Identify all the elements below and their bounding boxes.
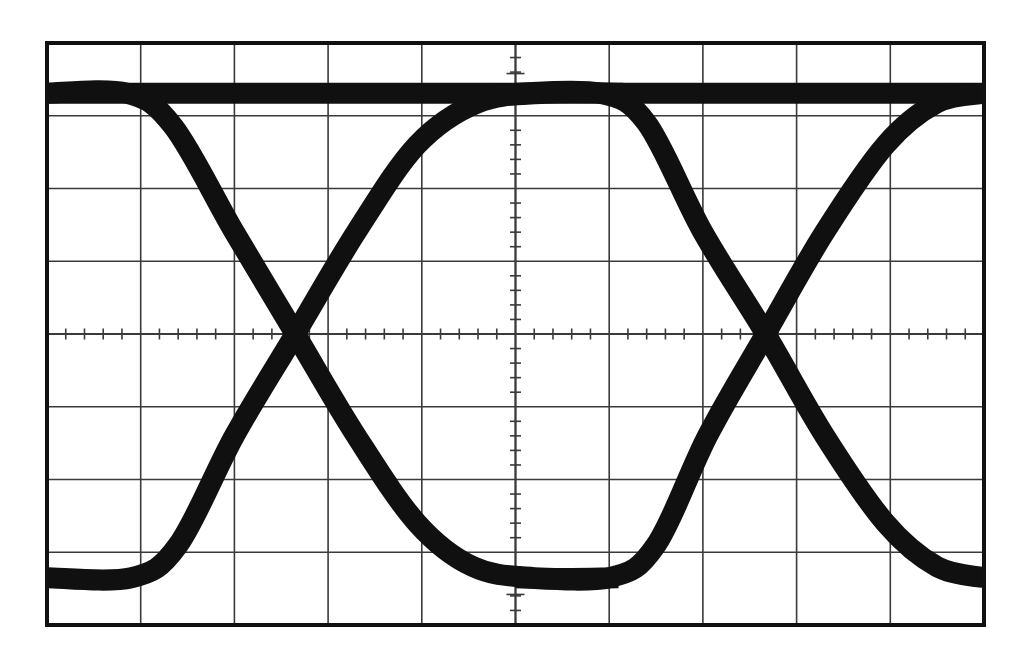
oscilloscope-screenshot [0,0,1020,655]
eye-diagram-figure [0,0,1020,655]
